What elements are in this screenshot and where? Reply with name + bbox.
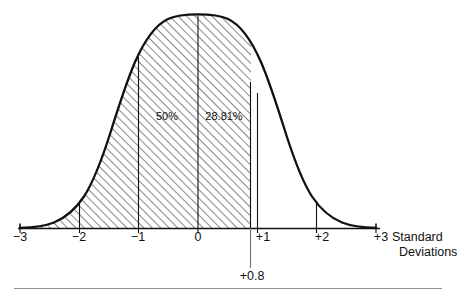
area-label-28-81-percent: 28.81%	[205, 110, 242, 122]
x-tick-label-minus2: −2	[72, 231, 86, 244]
x-tick-label-zero: 0	[195, 231, 202, 244]
drop-line-label-plus0point8: +0.8	[240, 269, 265, 283]
x-axis-title: Standard Deviations	[392, 230, 457, 259]
bottom-divider-rule	[14, 288, 442, 289]
x-axis-title-line1: Standard	[392, 230, 443, 244]
x-tick-label-plus1: +1	[256, 231, 270, 244]
x-tick-label-plus2: +2	[315, 231, 329, 244]
x-axis-title-line2: Deviations	[392, 245, 457, 260]
x-tick-label-minus3: −3	[13, 231, 27, 244]
x-tick-label-plus3: +3	[374, 231, 388, 244]
x-tick-label-minus1: −1	[131, 231, 145, 244]
area-label-50-percent: 50%	[156, 110, 178, 122]
